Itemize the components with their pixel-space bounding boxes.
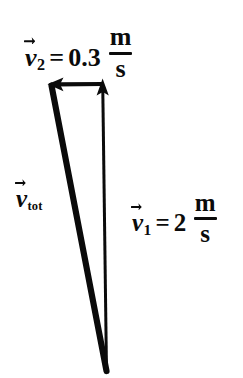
- vector-symbol-v1: v: [132, 210, 143, 235]
- vector-symbol-vtot: v: [16, 186, 27, 211]
- unit-numerator-v2: m: [109, 24, 133, 51]
- vector-arrow-accent-icon: [131, 200, 142, 210]
- vector-letter: v: [132, 209, 143, 236]
- equals-sign-v2: =: [45, 43, 68, 72]
- vector-vtot: [52, 86, 107, 372]
- vector-letter: v: [16, 185, 27, 212]
- unit-fraction-v1: ms: [194, 190, 217, 246]
- value-v2: 0.3: [68, 43, 101, 72]
- value-v1: 2: [174, 209, 187, 236]
- vector-letter: v: [25, 43, 37, 72]
- unit-denominator-v2: s: [109, 56, 133, 83]
- unit-numerator-v1: m: [194, 190, 217, 216]
- label-v1: v1=2ms: [132, 190, 217, 246]
- unit-fraction-v2: ms: [109, 24, 133, 82]
- vector-subscript-v2: 2: [37, 56, 46, 73]
- unit-denominator-v1: s: [194, 221, 217, 247]
- figure-canvas: v2=0.3ms vtot v1=2ms: [0, 0, 243, 378]
- vector-subscript-vtot: tot: [27, 199, 42, 213]
- label-v2: v2=0.3ms: [25, 24, 132, 82]
- equals-sign-v1: =: [151, 209, 173, 236]
- label-vtot: vtot: [16, 186, 43, 213]
- vector-symbol-v2: v: [25, 45, 37, 71]
